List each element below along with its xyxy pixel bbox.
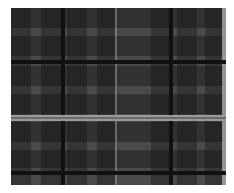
- plaid-fabric: [11, 8, 226, 185]
